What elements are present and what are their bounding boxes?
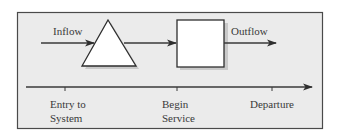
queue-flow-diagram: Inflow Outflow Entry to System Begin Ser…: [0, 0, 340, 138]
service-square-icon: [177, 20, 224, 67]
tick-label-departure: Departure: [250, 98, 294, 110]
tick-label-begin-line2: Service: [162, 112, 195, 124]
tick-label-entry-line1: Entry to: [50, 98, 86, 110]
outflow-label: Outflow: [231, 25, 268, 37]
tick-label-entry-line2: System: [50, 112, 83, 124]
inflow-label: Inflow: [53, 25, 82, 37]
tick-label-begin-line1: Begin: [162, 98, 189, 110]
